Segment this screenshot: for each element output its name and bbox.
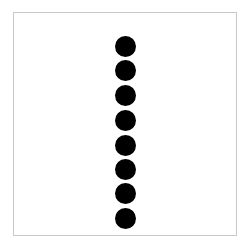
dot (115, 135, 136, 156)
dot (115, 85, 136, 106)
dot (115, 208, 136, 229)
dot (115, 36, 136, 57)
dot (115, 60, 136, 81)
dot (115, 110, 136, 131)
dot (115, 183, 136, 204)
dot (115, 159, 136, 180)
